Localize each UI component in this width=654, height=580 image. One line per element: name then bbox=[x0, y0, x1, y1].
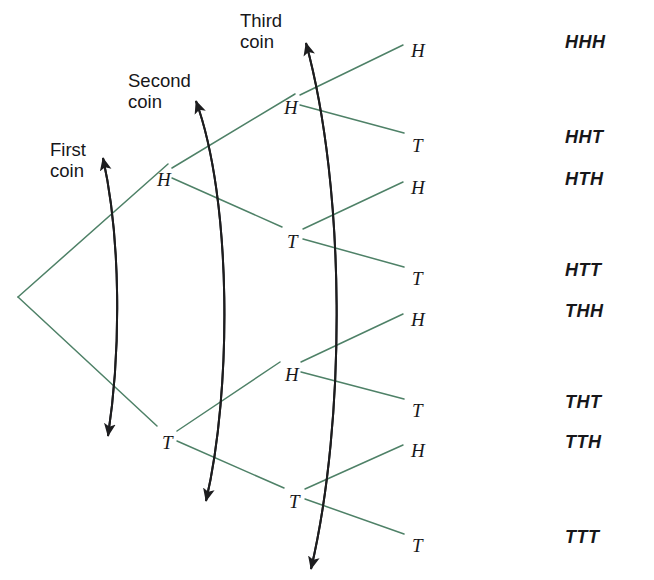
outcome-HHT: HHT bbox=[565, 128, 604, 146]
node-n-TH: H bbox=[285, 365, 299, 384]
stage-label-first-coin: First coin bbox=[50, 139, 86, 182]
branch-line bbox=[18, 297, 157, 426]
arrow-first-coin-reverse-head bbox=[103, 158, 117, 436]
branch-line bbox=[301, 372, 404, 399]
branch-line bbox=[305, 445, 403, 489]
arrow-second-coin bbox=[196, 101, 224, 501]
outcome-TTT: TTT bbox=[565, 528, 600, 546]
node-n-HTT: T bbox=[412, 269, 423, 288]
node-n-HTH: H bbox=[411, 178, 425, 197]
arrow-second-coin-reverse-head bbox=[196, 101, 224, 501]
node-n-THT: T bbox=[412, 401, 423, 420]
arrow-third-coin-reverse-head bbox=[306, 43, 337, 569]
node-n-HH: H bbox=[284, 98, 298, 117]
branch-line bbox=[18, 164, 168, 297]
outcome-HTT: HTT bbox=[565, 261, 602, 279]
figure-canvas: HTHTHTHTHTHTHT HHHHHTHTHHTTTHHTHTTTHTTT … bbox=[0, 0, 654, 580]
node-n-HHT: T bbox=[412, 136, 423, 155]
branch-line bbox=[300, 105, 404, 133]
node-n-HHH: H bbox=[411, 41, 425, 60]
branch-line bbox=[303, 239, 404, 267]
outcome-HHH: HHH bbox=[565, 33, 606, 51]
node-n-HT: T bbox=[287, 232, 298, 251]
stage-arrows bbox=[103, 43, 337, 569]
node-n-TTH: H bbox=[411, 441, 425, 460]
node-n-T: T bbox=[162, 433, 173, 452]
branch-line bbox=[172, 178, 282, 227]
outcome-THH: THH bbox=[565, 302, 604, 320]
branch-line bbox=[177, 441, 284, 488]
outcome-TTH: TTH bbox=[565, 433, 602, 451]
outcome-HTH: HTH bbox=[565, 170, 604, 188]
branch-lines bbox=[18, 45, 404, 534]
node-n-TT: T bbox=[289, 492, 300, 511]
outcome-THT: THT bbox=[565, 393, 602, 411]
node-n-THH: H bbox=[411, 310, 425, 329]
node-n-TTT: T bbox=[412, 536, 423, 555]
stage-label-second-coin: Second coin bbox=[128, 70, 191, 113]
arrow-third-coin bbox=[306, 43, 337, 569]
tree-diagram-svg bbox=[0, 0, 654, 580]
node-n-H: H bbox=[157, 170, 171, 189]
branch-line bbox=[177, 362, 280, 431]
branch-line bbox=[301, 314, 403, 362]
branch-line bbox=[303, 182, 403, 229]
stage-label-third-coin: Third coin bbox=[240, 10, 282, 53]
